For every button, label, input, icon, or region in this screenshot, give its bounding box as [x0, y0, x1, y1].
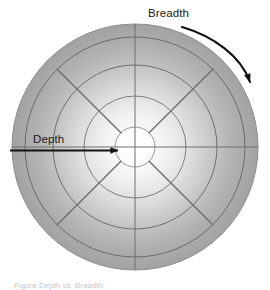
depth-label: Depth [33, 133, 64, 145]
figure-caption: Figure Depth vs. Breadth [14, 281, 264, 290]
breadth-label: Breadth [148, 7, 189, 19]
